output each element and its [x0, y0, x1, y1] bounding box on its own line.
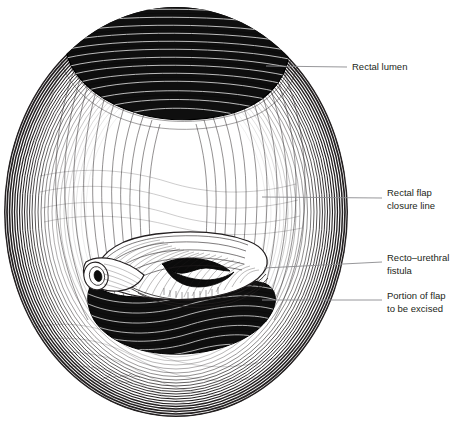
rectal-flap-illustration-svg: Rectal lumen Rectal flap closure line Re… — [0, 0, 452, 436]
label-portion-of-flap-1: Portion of flap — [387, 290, 446, 301]
illustration-figure: Rectal lumen Rectal flap closure line Re… — [0, 0, 452, 436]
label-recto-urethral-fistula-2: fistula — [387, 265, 413, 276]
label-recto-urethral-fistula-1: Recto–urethral — [387, 252, 449, 263]
label-rectal-lumen: Rectal lumen — [352, 61, 407, 72]
label-portion-of-flap-2: to be excised — [387, 303, 443, 314]
label-rectal-flap-closure-line-2: closure line — [387, 200, 435, 211]
label-rectal-flap-closure-line-1: Rectal flap — [387, 187, 432, 198]
